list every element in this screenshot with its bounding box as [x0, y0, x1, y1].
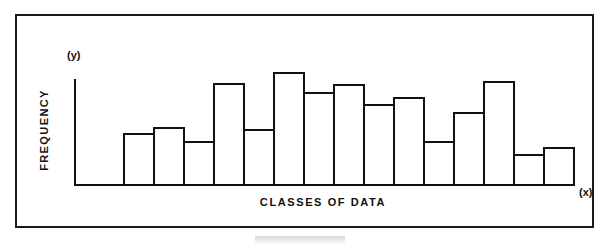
histogram-bar: [303, 92, 335, 186]
histogram-bar: [513, 154, 545, 186]
caption-scan-artifact: [255, 236, 345, 245]
histogram-figure: (y) (x) FREQUENCY CLASSES OF DATA: [0, 0, 607, 250]
histogram-bar: [273, 72, 305, 186]
histogram-bar: [393, 97, 425, 186]
histogram-bar: [453, 112, 485, 186]
histogram-bar: [363, 104, 395, 186]
histogram-bar: [123, 133, 155, 186]
histogram-bars: [74, 49, 572, 186]
histogram-bar: [483, 81, 515, 186]
histogram-bar: [543, 147, 575, 186]
histogram-bar: [423, 141, 455, 186]
figure-border-frame: (y) (x) FREQUENCY CLASSES OF DATA: [15, 14, 594, 228]
histogram-bar: [183, 141, 215, 186]
x-axis-title: CLASSES OF DATA: [74, 196, 572, 208]
plot-area: (y) (x) FREQUENCY CLASSES OF DATA: [17, 16, 596, 230]
histogram-bar: [333, 84, 365, 186]
y-axis-title: FREQUENCY: [38, 80, 50, 180]
x-axis-end-label: (x): [579, 186, 592, 198]
histogram-bar: [213, 83, 245, 186]
histogram-bar: [153, 127, 185, 186]
histogram-bar: [243, 129, 275, 186]
